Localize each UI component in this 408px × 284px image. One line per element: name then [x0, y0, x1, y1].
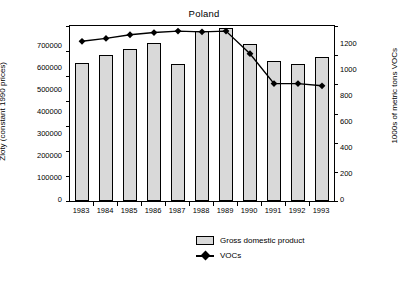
y-axis-title-left: Zloty (constant 1990 prices): [0, 62, 7, 161]
chart-title: Poland: [0, 8, 408, 19]
vocs-point-1986: [151, 29, 158, 36]
legend-label-gdp: Gross domestic product: [220, 236, 304, 245]
vocs-point-1987: [175, 28, 182, 35]
y-tick-label-left-3: 300000: [14, 129, 62, 138]
y-tick-label-left-2: 200000: [14, 151, 62, 160]
y-tick-right: [334, 201, 338, 202]
vocs-point-1984: [103, 35, 110, 42]
y-tick-right: [334, 26, 338, 27]
plot-area: [69, 25, 335, 202]
y-tick-label-right-2: 400: [340, 143, 380, 152]
y-tick-label-left-4: 400000: [14, 107, 62, 116]
vocs-point-1985: [127, 31, 134, 38]
vocs-point-1983: [79, 38, 86, 45]
y-tick-right: [334, 55, 338, 56]
plot-inner: [70, 26, 334, 201]
legend: Gross domestic product VOCs: [196, 235, 304, 265]
bar-swatch-icon: [196, 236, 214, 245]
y-tick-label-left-1: 100000: [14, 173, 62, 182]
vocs-point-1993: [319, 82, 326, 89]
y-tick-label-left-6: 600000: [14, 63, 62, 72]
vocs-line-series: [70, 26, 334, 201]
vocs-point-1988: [199, 28, 206, 35]
y-axis-title-right: 1000s of metric tons VOCs: [390, 48, 399, 144]
legend-item-vocs: VOCs: [196, 250, 304, 261]
x-tick-label-1993: 1993: [306, 206, 336, 215]
y-tick-label-right-5: 1000: [340, 65, 380, 74]
chart-root: Poland Zloty (constant 1990 prices) 1000…: [0, 0, 408, 284]
y-tick-left: [66, 201, 70, 202]
y-tick-label-left-0: 0: [14, 195, 62, 204]
legend-label-vocs: VOCs: [220, 251, 241, 260]
y-tick-right: [334, 114, 338, 115]
diamond-line-icon: [196, 251, 214, 260]
y-tick-label-right-1: 200: [340, 169, 380, 178]
y-tick-label-left-7: 700000: [14, 41, 62, 50]
y-tick-right: [334, 143, 338, 144]
y-tick-label-right-0: 0: [340, 195, 380, 204]
vocs-point-1992: [295, 80, 302, 87]
legend-item-gdp: Gross domestic product: [196, 235, 304, 246]
y-tick-label-right-4: 800: [340, 91, 380, 100]
y-tick-label-right-3: 600: [340, 117, 380, 126]
y-tick-right: [334, 84, 338, 85]
y-tick-label-left-5: 500000: [14, 85, 62, 94]
y-tick-label-right-6: 1200: [340, 39, 380, 48]
y-tick-right: [334, 172, 338, 173]
